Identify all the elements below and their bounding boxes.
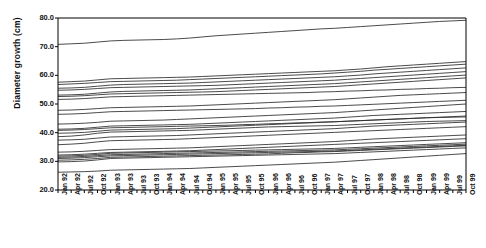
plot-frame: [58, 18, 466, 190]
data-line: [58, 64, 466, 84]
axis-tick-marks: [55, 18, 466, 193]
data-lines: [58, 20, 466, 172]
data-line: [58, 20, 466, 44]
data-line: [58, 72, 466, 91]
data-line: [58, 135, 466, 152]
data-line: [58, 127, 466, 145]
data-line: [58, 111, 466, 129]
data-line: [58, 121, 466, 137]
data-line: [58, 68, 466, 88]
plot-area: [0, 0, 486, 248]
data-line: [58, 154, 466, 173]
chart-figure: Diameter growth (cm) 20.030.040.050.060.…: [0, 0, 486, 248]
data-line: [58, 116, 466, 130]
